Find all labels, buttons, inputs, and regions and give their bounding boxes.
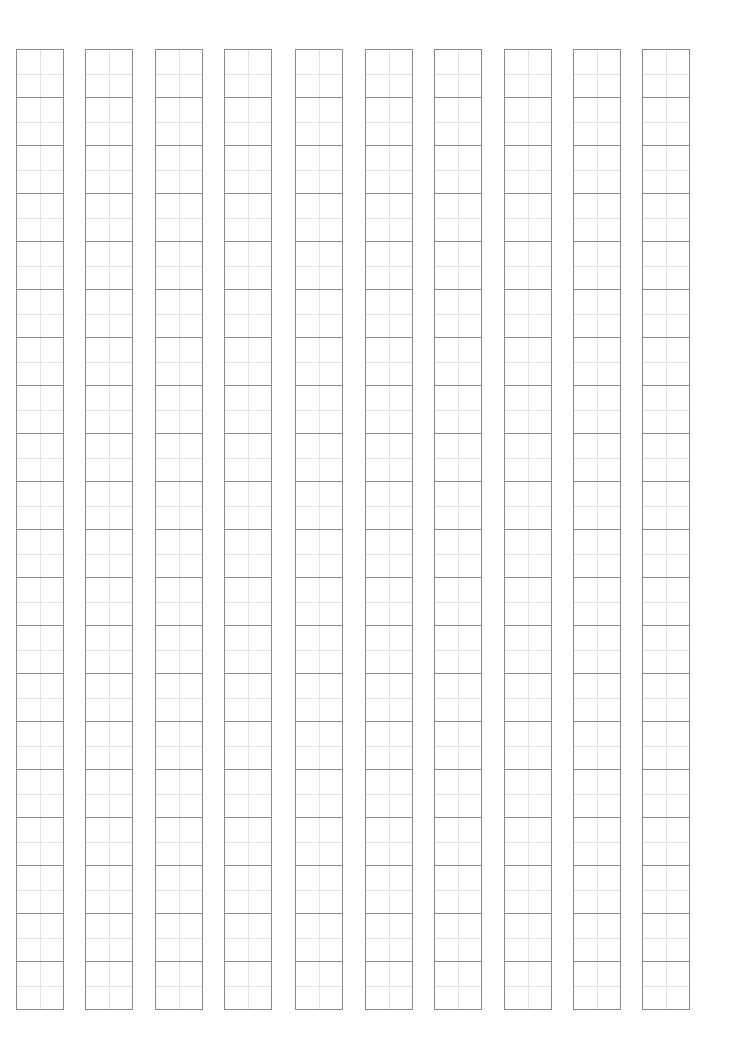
horizontal-guide-line: [435, 506, 481, 507]
grid-cell: [296, 722, 342, 770]
horizontal-guide-line: [574, 314, 620, 315]
horizontal-guide-line: [505, 458, 551, 459]
grid-column-5: [295, 49, 343, 1010]
horizontal-guide-line: [156, 362, 202, 363]
horizontal-guide-line: [643, 410, 689, 411]
horizontal-guide-line: [86, 698, 132, 699]
grid-cell: [296, 914, 342, 962]
grid-cell: [17, 866, 63, 914]
horizontal-guide-line: [86, 794, 132, 795]
horizontal-guide-line: [296, 74, 342, 75]
horizontal-guide-line: [435, 266, 481, 267]
grid-cell: [505, 338, 551, 386]
grid-cell: [643, 770, 689, 818]
grid-cell: [17, 962, 63, 1009]
grid-cell: [156, 98, 202, 146]
grid-cell: [366, 818, 412, 866]
horizontal-guide-line: [366, 314, 412, 315]
grid-cell: [643, 482, 689, 530]
horizontal-guide-line: [643, 842, 689, 843]
horizontal-guide-line: [296, 602, 342, 603]
horizontal-guide-line: [17, 362, 63, 363]
grid-cell: [574, 50, 620, 98]
grid-cell: [296, 866, 342, 914]
horizontal-guide-line: [156, 122, 202, 123]
grid-cell: [366, 146, 412, 194]
horizontal-guide-line: [505, 986, 551, 987]
grid-cell: [366, 242, 412, 290]
horizontal-guide-line: [17, 218, 63, 219]
horizontal-guide-line: [505, 842, 551, 843]
grid-cell: [86, 866, 132, 914]
horizontal-guide-line: [435, 746, 481, 747]
horizontal-guide-line: [17, 602, 63, 603]
grid-cell: [505, 386, 551, 434]
horizontal-guide-line: [86, 986, 132, 987]
horizontal-guide-line: [435, 842, 481, 843]
horizontal-guide-line: [86, 554, 132, 555]
horizontal-guide-line: [156, 74, 202, 75]
grid-cell: [156, 722, 202, 770]
horizontal-guide-line: [643, 650, 689, 651]
horizontal-guide-line: [574, 890, 620, 891]
horizontal-guide-line: [86, 602, 132, 603]
horizontal-guide-line: [156, 890, 202, 891]
horizontal-guide-line: [366, 458, 412, 459]
grid-cell: [366, 914, 412, 962]
horizontal-guide-line: [296, 122, 342, 123]
grid-cell: [574, 962, 620, 1009]
horizontal-guide-line: [17, 890, 63, 891]
grid-cell: [505, 674, 551, 722]
grid-cell: [366, 386, 412, 434]
horizontal-guide-line: [643, 602, 689, 603]
grid-cell: [225, 194, 271, 242]
grid-cell: [156, 50, 202, 98]
horizontal-guide-line: [643, 266, 689, 267]
grid-cell: [86, 770, 132, 818]
grid-column-4: [224, 49, 272, 1010]
horizontal-guide-line: [574, 170, 620, 171]
grid-cell: [86, 50, 132, 98]
grid-cell: [435, 914, 481, 962]
grid-cell: [505, 194, 551, 242]
horizontal-guide-line: [156, 554, 202, 555]
horizontal-guide-line: [296, 794, 342, 795]
horizontal-guide-line: [574, 266, 620, 267]
grid-cell: [505, 914, 551, 962]
grid-cell: [505, 530, 551, 578]
grid-cell: [225, 146, 271, 194]
horizontal-guide-line: [156, 842, 202, 843]
grid-cell: [505, 290, 551, 338]
grid-cell: [505, 722, 551, 770]
grid-cell: [643, 146, 689, 194]
horizontal-guide-line: [296, 938, 342, 939]
grid-cell: [643, 338, 689, 386]
horizontal-guide-line: [156, 218, 202, 219]
grid-cell: [86, 530, 132, 578]
horizontal-guide-line: [574, 554, 620, 555]
grid-cell: [435, 818, 481, 866]
horizontal-guide-line: [505, 794, 551, 795]
grid-cell: [366, 578, 412, 626]
horizontal-guide-line: [643, 458, 689, 459]
grid-cell: [296, 386, 342, 434]
grid-cell: [574, 530, 620, 578]
horizontal-guide-line: [156, 410, 202, 411]
grid-cell: [296, 146, 342, 194]
horizontal-guide-line: [86, 458, 132, 459]
grid-cell: [366, 674, 412, 722]
grid-cell: [156, 578, 202, 626]
horizontal-guide-line: [225, 554, 271, 555]
grid-cell: [156, 818, 202, 866]
horizontal-guide-line: [156, 602, 202, 603]
grid-cell: [225, 386, 271, 434]
horizontal-guide-line: [366, 506, 412, 507]
grid-cell: [296, 98, 342, 146]
horizontal-guide-line: [225, 698, 271, 699]
grid-cell: [366, 722, 412, 770]
grid-cell: [17, 242, 63, 290]
horizontal-guide-line: [225, 602, 271, 603]
grid-cell: [225, 866, 271, 914]
grid-column-1: [16, 49, 64, 1010]
grid-cell: [17, 818, 63, 866]
